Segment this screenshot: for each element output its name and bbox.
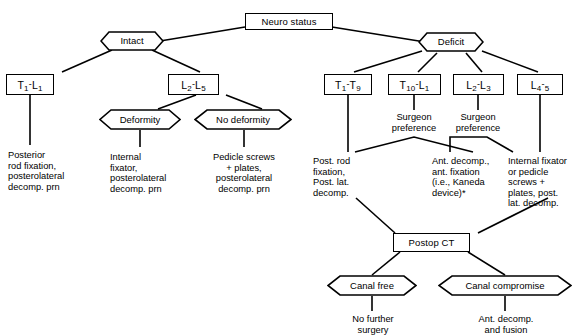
node-no-deformity[interactable]: No deformity xyxy=(194,109,292,130)
node-deficit-label: Deficit xyxy=(438,37,464,47)
node-level-t1-t9[interactable]: T1-T9 xyxy=(324,74,372,95)
label-surgeon-preference-left: Surgeon preference xyxy=(377,112,451,134)
treatment-internal-fixator-or-pedicle: Internal fixator or pedicle screws + pla… xyxy=(508,156,586,209)
edge-deficit-l2l3 xyxy=(466,53,482,72)
label-surgeon-preference-right: Surgeon preference xyxy=(441,112,515,134)
node-deformity-label: Deformity xyxy=(120,115,161,125)
node-canal-compromise[interactable]: Canal compromise xyxy=(438,275,572,296)
edge-deficit-l45 xyxy=(482,51,538,72)
node-level-t1-l1[interactable]: T1-L1 xyxy=(6,74,54,95)
edge-deficit-t1t9 xyxy=(354,51,422,72)
edge-root-intact xyxy=(160,27,245,41)
node-postop-ct[interactable]: Postop CT xyxy=(393,233,470,252)
edge-intact-l2l5 xyxy=(152,50,200,72)
treatment-internal-fixator: Internal fixator, posterolateral decomp.… xyxy=(110,152,200,194)
node-no-deformity-label: No deformity xyxy=(216,115,270,125)
outcome-no-further-surgery: No further surgery xyxy=(330,314,416,335)
node-level-l2-l3[interactable]: L2-L3 xyxy=(453,74,504,95)
node-level-t10-l1[interactable]: T10-L1 xyxy=(388,74,441,95)
level-label: L2-L3 xyxy=(466,79,491,91)
level-label: L2-L5 xyxy=(181,79,206,91)
node-neuro-status[interactable]: Neuro status xyxy=(245,13,333,30)
level-label: T1-T9 xyxy=(335,79,361,91)
edge-deficit-t10l1 xyxy=(418,53,437,72)
outcome-ant-decomp-and-fusion: Ant. decomp. and fusion xyxy=(459,314,553,335)
level-label: T1-L1 xyxy=(17,79,42,91)
edge-postrod-postopct xyxy=(356,198,395,233)
node-canal-free[interactable]: Canal free xyxy=(327,275,417,296)
level-label: T10-L1 xyxy=(400,79,430,91)
edge-surgeonpref-right-bracket xyxy=(450,137,513,152)
treatment-post-rod-fixation: Post. rod fixation, Post. lat. decomp. xyxy=(313,156,385,198)
node-canal-compromise-label: Canal compromise xyxy=(465,281,544,291)
level-label: L4-5 xyxy=(531,79,550,91)
edge-root-deficit xyxy=(332,27,425,42)
edge-intact-t1l1 xyxy=(62,50,112,72)
node-deformity[interactable]: Deformity xyxy=(99,109,181,130)
node-neuro-status-label: Neuro status xyxy=(261,16,316,27)
treatment-posterior-rod: Posterior rod fixation, posterolateral d… xyxy=(8,150,100,192)
treatment-pedicle-screws-plates: Pedicle screws + plates, posterolateral … xyxy=(196,152,292,194)
edge-l2l5-deformity xyxy=(158,95,196,109)
node-deficit[interactable]: Deficit xyxy=(418,32,484,52)
edge-postopct-canalcompromise xyxy=(468,252,505,275)
node-level-l4-5[interactable]: L4-5 xyxy=(517,74,563,95)
edge-surgeonpref-left-split xyxy=(355,137,473,152)
node-intact[interactable]: Intact xyxy=(100,31,164,51)
edge-postopct-canalfree xyxy=(372,252,400,275)
node-postop-ct-label: Postop CT xyxy=(409,237,455,248)
edge-l2l5-nodeformity xyxy=(226,95,262,109)
node-canal-free-label: Canal free xyxy=(350,281,394,291)
treatment-ant-decomp-kaneda: Ant. decomp., ant. fixation (i.e., Kaned… xyxy=(432,156,512,198)
node-intact-label: Intact xyxy=(120,36,143,46)
decision-tree-diagram: Neuro status Intact Deficit T1-L1 L2-L5 … xyxy=(0,0,586,336)
node-level-l2-l5[interactable]: L2-L5 xyxy=(168,74,219,95)
